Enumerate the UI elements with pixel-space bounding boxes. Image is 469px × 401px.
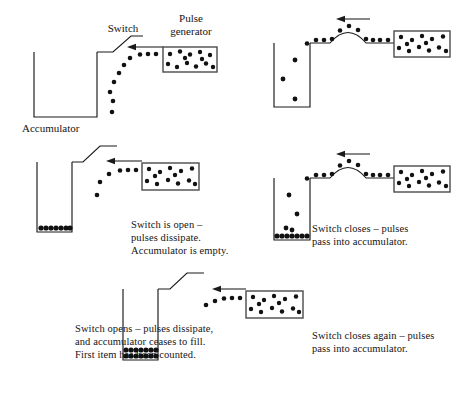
panel-switch-open-two-increments: Switch opens – accumulator ceases to fil…: [118, 262, 418, 401]
dissipating-pulses: [108, 52, 159, 115]
panel-3-caption: Switch opens – pulses dissipate, and acc…: [0, 260, 16, 323]
panel-3-drawing: [0, 140, 250, 260]
pulse-generator-label-line2: generator: [156, 25, 226, 37]
accumulated-increment-row: [123, 353, 158, 358]
left-arrow-icon: [336, 16, 370, 22]
switch-lever-icon: [158, 273, 204, 289]
panel-5-drawing: [118, 262, 418, 401]
switch-lever-icon: [97, 36, 143, 52]
accumulated-increment-row: [274, 233, 309, 238]
panel-switch-closed-filling-again: Switch closes again – pulses pass into a…: [262, 140, 469, 260]
left-arrow-icon: [106, 158, 142, 164]
accumulator-vessel-icon: [34, 52, 97, 117]
falling-pulses: [281, 58, 298, 102]
left-arrow-icon: [212, 286, 246, 292]
left-arrow-icon: [336, 151, 370, 157]
accumulated-increment-row: [38, 225, 72, 230]
panel-4-drawing: [262, 140, 469, 260]
panel-switch-closed-filling: Switch closes – pulses pass into accumul…: [262, 0, 469, 140]
left-arrow-icon: [127, 44, 163, 50]
falling-pulses: [284, 193, 300, 233]
panel-2-drawing: [262, 0, 469, 140]
accumulated-increment-row: [123, 347, 158, 352]
switch-label: Switch: [93, 22, 153, 34]
dissipating-pulses: [95, 168, 139, 198]
pulse-generator-box-icon: [163, 47, 217, 72]
panel-switch-open-empty: Switch Pulse generator Accumulator: [0, 0, 250, 140]
counting-sequence-figure: Switch Pulse generator Accumulator: [0, 0, 469, 401]
accumulator-label: Accumulator: [22, 122, 102, 134]
pulse-generator-label-line1: Pulse: [160, 12, 222, 24]
dissipating-pulses: [204, 296, 243, 308]
accumulator-vessel-icon: [274, 43, 310, 107]
accumulator-vessel-icon: [37, 162, 72, 232]
panel-switch-open-one-increment: Switch opens – pulses dissipate, and acc…: [0, 140, 250, 260]
